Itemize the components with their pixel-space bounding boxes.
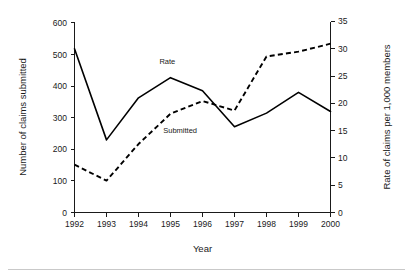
chart-figure: 0 100 200 300 400 500 600 0 5 10 15 20 2… [0,0,413,275]
series-line-rate [75,49,331,140]
left-tick-label: 200 [53,144,67,154]
left-tick-label: 300 [53,113,67,123]
y-axis-title: Number of claims submitted [17,58,28,176]
right-tick-label: 10 [338,153,348,163]
line-chart: 0 100 200 300 400 500 600 0 5 10 15 20 2… [0,0,413,275]
x-tick-label: 1998 [257,219,276,229]
left-tick-label: 0 [62,208,67,218]
x-tick-label: 1996 [193,219,212,229]
left-axis-ticks [71,23,75,213]
right-tick-label: 25 [338,71,348,81]
y2-axis-title: Rate of claims per 1,000 members [381,44,392,189]
x-axis-tick-labels: 1992 1993 1994 1995 1996 1997 1998 1999 … [65,219,340,229]
x-tick-label: 1994 [129,219,148,229]
right-tick-label: 30 [338,44,348,54]
x-tick-label: 1999 [289,219,308,229]
right-axis-tick-labels: 0 5 10 15 20 25 30 35 [338,16,348,217]
x-tick-label: 1997 [225,219,244,229]
series-annotation-submitted: Submitted [163,126,197,135]
left-tick-label: 600 [53,18,67,28]
series-annotation-rate: Rate [159,57,175,66]
x-axis-ticks [75,213,331,217]
x-tick-label: 1993 [97,219,116,229]
left-tick-label: 100 [53,176,67,186]
left-tick-label: 500 [53,50,67,60]
x-tick-label: 2000 [321,219,340,229]
right-tick-label: 15 [338,126,348,136]
right-tick-label: 35 [338,16,348,26]
left-axis-tick-labels: 0 100 200 300 400 500 600 [53,18,67,218]
right-axis-ticks [331,21,335,212]
right-tick-label: 0 [338,208,343,218]
right-tick-label: 20 [338,98,348,108]
series-line-submitted [75,44,331,181]
footer-divider [8,269,405,270]
x-tick-label: 1992 [65,219,84,229]
x-axis-title: Year [193,243,212,254]
right-tick-label: 5 [338,180,343,190]
x-tick-label: 1995 [161,219,180,229]
left-tick-label: 400 [53,81,67,91]
